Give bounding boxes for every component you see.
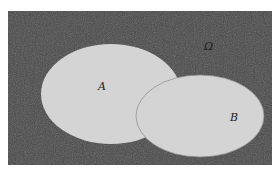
set-b-label: B	[229, 111, 238, 124]
set-a-label: A	[97, 80, 106, 93]
universe-label: Ω	[203, 40, 213, 53]
set-b-ellipse	[136, 75, 264, 157]
venn-diagram: Ω A B	[0, 0, 280, 175]
